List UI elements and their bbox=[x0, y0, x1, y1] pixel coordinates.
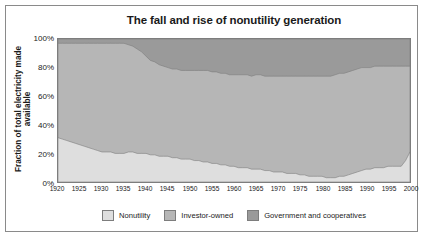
legend-label-government: Government and cooperatives bbox=[264, 211, 366, 220]
legend-label-investor-owned: Investor-owned bbox=[181, 211, 233, 220]
x-tick-2000: 2000 bbox=[396, 185, 426, 192]
legend-item-nonutility: Nonutility bbox=[102, 210, 150, 221]
legend-swatch-investor-owned bbox=[164, 210, 176, 221]
legend: Nonutility Investor-owned Government and… bbox=[57, 206, 411, 224]
legend-label-nonutility: Nonutility bbox=[119, 211, 150, 220]
legend-swatch-nonutility bbox=[102, 210, 114, 221]
legend-item-government: Government and cooperatives bbox=[247, 210, 366, 221]
y-tick-80: 80% bbox=[2, 63, 54, 72]
y-axis-ticks: 100% 80% 60% 40% 20% 0% bbox=[0, 0, 54, 244]
y-tick-100: 100% bbox=[2, 34, 54, 43]
y-tick-60: 60% bbox=[2, 92, 54, 101]
x-axis-ticks: 1920 1925 1930 1935 1940 1945 1950 1955 … bbox=[57, 185, 411, 199]
legend-swatch-government bbox=[247, 210, 259, 221]
stacked-area-plot bbox=[58, 39, 410, 182]
y-tick-20: 20% bbox=[2, 150, 54, 159]
chart-figure: The fall and rise of nonutility generati… bbox=[0, 0, 426, 244]
plot-area bbox=[57, 38, 411, 183]
page-title: The fall and rise of nonutility generati… bbox=[57, 14, 411, 26]
legend-item-investor-owned: Investor-owned bbox=[164, 210, 233, 221]
y-tick-40: 40% bbox=[2, 121, 54, 130]
